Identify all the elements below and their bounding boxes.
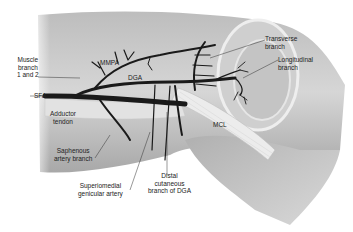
label-longitudinal-branch: Longitudinal branch xyxy=(278,56,313,71)
label-line: artery branch xyxy=(54,155,92,163)
label-line: Superiomedial xyxy=(78,182,123,190)
label-dga: DGA xyxy=(128,74,142,82)
label-line: cutaneous xyxy=(148,180,191,188)
label-saphenous-artery-branch: Saphenous artery branch xyxy=(54,147,92,162)
label-distal-cutaneous-branch: Distal cutaneous branch of DGA xyxy=(148,172,191,195)
label-line: Transverse xyxy=(265,35,297,43)
label-transverse-branch: Transverse branch xyxy=(265,35,297,50)
label-line: branch xyxy=(265,43,297,51)
label-line: branch xyxy=(17,64,39,72)
label-line: branch xyxy=(278,64,313,72)
label-mcl: MCL xyxy=(213,121,227,129)
label-sfa: SFA xyxy=(34,92,46,100)
label-muscle-branch: Muscle branch 1 and 2 xyxy=(17,56,39,79)
label-line: Muscle xyxy=(17,56,39,64)
label-superomedial-genicular-artery: Superiomedial genicular artery xyxy=(78,182,123,197)
label-line: branch of DGA xyxy=(148,187,191,195)
label-line: Distal xyxy=(148,172,191,180)
label-mmpa: MMPA xyxy=(100,59,119,67)
knee-artery-diagram: Muscle branch 1 and 2 MMPA DGA SFA Adduc… xyxy=(0,0,353,232)
label-line: Saphenous xyxy=(54,147,92,155)
label-line: genicular artery xyxy=(78,190,123,198)
label-line: Adductor xyxy=(50,110,76,118)
label-adductor-tendon: Adductor tendon xyxy=(50,110,76,125)
label-line: tendon xyxy=(50,118,76,126)
label-line: Longitudinal xyxy=(278,56,313,64)
label-line: 1 and 2 xyxy=(17,71,39,79)
